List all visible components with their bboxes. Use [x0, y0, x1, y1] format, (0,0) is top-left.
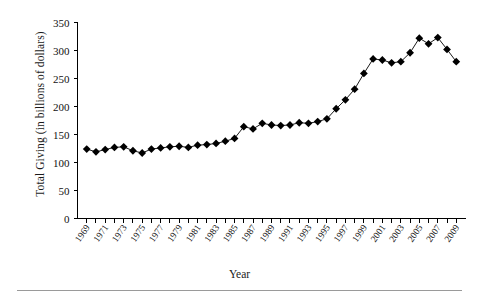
data-point-marker — [295, 119, 303, 127]
x-tick-label: 1995 — [313, 223, 332, 244]
x-tick-label: 1991 — [276, 223, 295, 244]
data-point-marker — [111, 143, 119, 151]
data-point-marker — [249, 125, 257, 133]
y-tick-label: 350 — [53, 17, 70, 29]
data-point-marker — [286, 121, 294, 129]
data-point-marker — [434, 34, 442, 42]
plot-area: 050100150200250300350 196919711973197519… — [0, 0, 479, 300]
x-tick-label: 1981 — [184, 223, 203, 244]
x-tick-label: 2001 — [369, 223, 388, 244]
x-tick-label: 1997 — [332, 223, 351, 244]
x-tick-label: 1979 — [165, 223, 184, 244]
x-tick-label: 1999 — [350, 223, 369, 244]
x-axis-title: Year — [0, 268, 479, 280]
y-tick-label-group: 050100150200250300350 — [53, 17, 70, 225]
series-marker-group — [83, 34, 460, 157]
bottom-divider — [17, 290, 462, 291]
chart-figure: Total Giving (in billions of dollars) 05… — [0, 0, 479, 300]
data-point-marker — [231, 135, 239, 143]
y-tick-label: 50 — [59, 185, 71, 197]
data-point-marker — [415, 34, 423, 42]
data-point-marker — [101, 146, 109, 154]
y-tick-label: 0 — [64, 213, 70, 225]
y-tick-label: 150 — [53, 129, 70, 141]
data-point-marker — [184, 143, 192, 151]
data-point-marker — [378, 56, 386, 64]
x-tick-label: 2005 — [406, 223, 425, 244]
x-tick-label: 2007 — [424, 223, 443, 244]
x-tick-label: 1969 — [73, 223, 92, 244]
x-tick-label: 1987 — [239, 223, 258, 244]
data-point-marker — [305, 119, 313, 127]
y-tick-label: 300 — [53, 45, 70, 57]
x-tick-label: 1985 — [221, 223, 240, 244]
x-tick-label: 1993 — [295, 223, 314, 244]
x-tick-label-group: 1969197119731975197719791981198319851987… — [73, 223, 462, 244]
series-line-total-giving — [87, 38, 457, 153]
data-point-marker — [92, 148, 100, 156]
data-point-marker — [221, 137, 229, 145]
data-point-marker — [175, 142, 183, 150]
data-point-marker — [277, 122, 285, 130]
x-tick-label: 1973 — [110, 223, 129, 244]
data-point-marker — [83, 145, 91, 153]
data-point-marker — [425, 40, 433, 48]
data-point-marker — [369, 55, 377, 63]
data-point-marker — [129, 147, 137, 155]
data-point-marker — [120, 143, 128, 151]
y-tick-mark-group — [74, 23, 78, 219]
data-point-marker — [314, 118, 322, 126]
x-tick-label: 1977 — [147, 223, 166, 244]
data-point-marker — [258, 119, 266, 127]
data-point-marker — [138, 149, 146, 157]
x-tick-mark-group — [87, 219, 457, 223]
y-tick-label: 100 — [53, 157, 70, 169]
x-tick-label: 1989 — [258, 223, 277, 244]
x-tick-label: 1983 — [202, 223, 221, 244]
data-point-marker — [212, 140, 220, 148]
x-tick-label: 1971 — [91, 223, 110, 244]
data-point-marker — [157, 144, 165, 152]
data-point-marker — [166, 143, 174, 151]
x-tick-label: 1975 — [128, 223, 147, 244]
data-point-marker — [194, 141, 202, 149]
x-tick-label: 2003 — [387, 223, 406, 244]
y-tick-label: 200 — [53, 101, 70, 113]
x-tick-label: 2009 — [443, 223, 462, 244]
data-point-marker — [443, 45, 451, 53]
data-point-marker — [452, 58, 460, 66]
y-tick-label: 250 — [53, 73, 70, 85]
data-point-marker — [268, 121, 276, 129]
data-point-marker — [203, 141, 211, 149]
data-point-marker — [388, 59, 396, 67]
data-point-marker — [148, 145, 156, 153]
data-point-marker — [360, 70, 368, 78]
data-point-marker — [240, 123, 248, 131]
